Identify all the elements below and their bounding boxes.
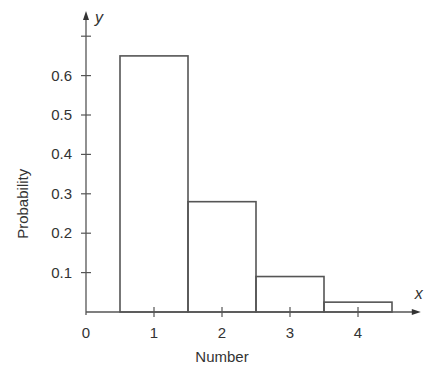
y-tick-label: 0.2 — [51, 224, 72, 241]
y-axis-symbol: y — [94, 9, 104, 26]
y-tick-label: 0.3 — [51, 185, 72, 202]
x-axis-title: Number — [195, 348, 248, 365]
x-tick-label: 1 — [150, 324, 158, 341]
bar-2 — [188, 202, 256, 312]
bar-3 — [256, 277, 324, 312]
bar-1 — [120, 56, 188, 312]
x-tick-label: 4 — [354, 324, 362, 341]
y-tick-label: 0.1 — [51, 264, 72, 281]
x-axis-symbol: x — [414, 285, 424, 302]
x-tick-label: 3 — [286, 324, 294, 341]
x-axis-arrow-icon — [412, 309, 421, 315]
x-tick-label: 2 — [218, 324, 226, 341]
y-tick-label: 0.5 — [51, 106, 72, 123]
y-tick-label: 0.4 — [51, 145, 72, 162]
y-axis-title: Probability — [14, 168, 31, 239]
y-axis-arrow-icon — [83, 11, 89, 20]
y-tick-label: 0.6 — [51, 67, 72, 84]
histogram-chart: 0.10.20.30.40.50.601234yxNumberProbabili… — [0, 0, 433, 369]
x-tick-label: 0 — [82, 324, 90, 341]
axes — [81, 11, 421, 317]
bars — [120, 56, 392, 312]
